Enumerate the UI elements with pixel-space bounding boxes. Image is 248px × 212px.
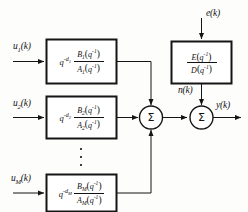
block-1-content: q-d1 B1(q-1) A1(q-1) bbox=[46, 39, 117, 84]
block-M-delay: q-dM bbox=[59, 188, 72, 199]
input-label-u1: u1(k) bbox=[13, 42, 31, 53]
block-M-content: q-dM BM(q-1) AM(q-1) bbox=[46, 174, 117, 212]
block-2-fraction: B2(q-1) A2(q-1) bbox=[74, 104, 104, 132]
block-1-fraction: B1(q-1) A1(q-1) bbox=[74, 48, 104, 76]
block-2-denominator: A2(q-1) bbox=[76, 118, 101, 131]
block-1-numerator: B1(q-1) bbox=[76, 48, 101, 61]
noise-signal-label-nk: n(k) bbox=[178, 86, 193, 96]
block-2-numerator: B2(q-1) bbox=[76, 104, 101, 117]
block-1-delay: q-d1 bbox=[59, 56, 71, 67]
wire-block1-to-sum bbox=[117, 62, 151, 106]
block-2-delay: q-d2 bbox=[59, 112, 71, 123]
sum-output: Σ bbox=[190, 106, 213, 129]
block-M-numerator: BM(q-1) bbox=[76, 179, 103, 192]
output-label-yk: y(k) bbox=[216, 101, 230, 111]
noise-block-denominator: D(q-1) bbox=[190, 63, 213, 75]
input-label-u2: u2(k) bbox=[13, 99, 31, 110]
sum-inputs-glyph: Σ bbox=[140, 106, 163, 129]
input-label-uM: uM(k) bbox=[11, 174, 31, 185]
wire-blockM-to-sum bbox=[117, 130, 151, 193]
noise-block-content: E(q-1) D(q-1) bbox=[171, 41, 232, 84]
ellipsis-dot bbox=[80, 164, 82, 166]
noise-source-label-ek: e(k) bbox=[206, 9, 220, 19]
noise-block-numerator: E(q-1) bbox=[191, 50, 213, 62]
block-1-denominator: A1(q-1) bbox=[76, 62, 101, 75]
block-M-denominator: AM(q-1) bbox=[76, 194, 103, 207]
sum-output-glyph: Σ bbox=[190, 106, 213, 129]
ellipsis-dot bbox=[80, 148, 82, 150]
sum-inputs: Σ bbox=[140, 106, 163, 129]
ellipsis-dots bbox=[79, 148, 83, 166]
block-M-fraction: BM(q-1) AM(q-1) bbox=[74, 179, 104, 207]
noise-block-fraction: E(q-1) D(q-1) bbox=[187, 50, 217, 75]
block-diagram-canvas: u1(k) u2(k) uM(k) q-d1 B1(q-1) A1(q-1) q… bbox=[0, 0, 248, 212]
block-2-content: q-d2 B2(q-1) A2(q-1) bbox=[46, 96, 117, 139]
ellipsis-dot bbox=[80, 156, 82, 158]
